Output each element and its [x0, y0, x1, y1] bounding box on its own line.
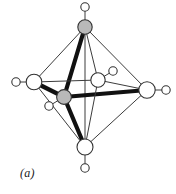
- atom-vertex-right: [139, 82, 155, 98]
- atom-mid-ligand: [109, 67, 117, 75]
- atom-left-ligand: [12, 78, 20, 86]
- atom-apex-top-ligand: [81, 3, 89, 11]
- bond-edge-thick: [64, 90, 147, 97]
- atom-right-ligand: [162, 86, 170, 94]
- atom-bottom-ligand: [81, 164, 89, 172]
- atom-vertex-left: [26, 74, 42, 90]
- atom-vertex-center: [57, 90, 72, 105]
- atom-vertex-mid: [91, 73, 105, 87]
- figure-container: (a): [0, 0, 176, 194]
- atom-vertex-bottom: [77, 139, 93, 155]
- atom-center-ligand: [45, 102, 53, 110]
- atom-vertex-top: [78, 20, 92, 34]
- octahedron-diagram: [0, 0, 176, 194]
- bond-edge-thin: [34, 80, 98, 82]
- bond-edge-thick: [64, 27, 85, 97]
- atom-layer: [12, 3, 170, 172]
- bond-edge-thin: [85, 27, 98, 80]
- figure-caption: (a): [20, 166, 35, 180]
